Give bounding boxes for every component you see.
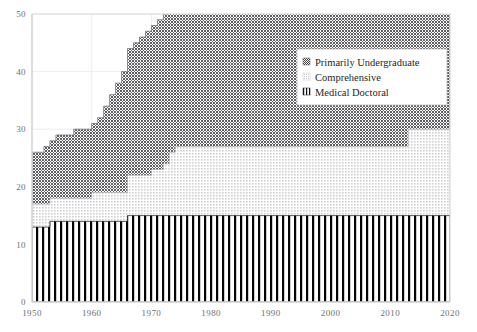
x-axis-tick-label: 1950 bbox=[22, 308, 42, 318]
area-medical-doctoral bbox=[32, 216, 450, 302]
x-axis-tick-label: 1960 bbox=[82, 308, 102, 318]
legend-swatch-undergraduate-icon bbox=[303, 58, 310, 65]
x-axis-tick-label: 2020 bbox=[440, 308, 460, 318]
legend: Primarily Undergraduate Comprehensive Me… bbox=[297, 49, 447, 105]
legend-label-comprehensive: Comprehensive bbox=[315, 72, 381, 83]
legend-swatch-comprehensive-icon bbox=[303, 73, 310, 80]
x-axis-tick-label: 1990 bbox=[261, 308, 281, 318]
x-axis-tick-label: 1970 bbox=[142, 308, 162, 318]
y-axis-tick-label: 20 bbox=[16, 182, 26, 192]
y-axis-tick-label: 50 bbox=[16, 9, 26, 19]
legend-label-medical-doctoral: Medical Doctoral bbox=[315, 87, 389, 98]
stacked-area-chart: 01020304050 1950196019701980199020002010… bbox=[0, 0, 477, 332]
y-axis-tick-label: 10 bbox=[16, 240, 26, 250]
y-axis-tick-label: 30 bbox=[16, 124, 26, 134]
legend-swatch-medical-doctoral-icon bbox=[303, 88, 310, 95]
legend-label-undergraduate: Primarily Undergraduate bbox=[315, 57, 420, 68]
x-axis-tick-label: 2000 bbox=[321, 308, 341, 318]
chart-canvas: 01020304050 1950196019701980199020002010… bbox=[0, 0, 477, 332]
x-axis-tick-label: 1980 bbox=[201, 308, 221, 318]
y-axis-tick-label: 40 bbox=[16, 67, 26, 77]
y-axis-tick-label: 0 bbox=[21, 297, 26, 307]
x-axis-tick-label: 2010 bbox=[380, 308, 400, 318]
